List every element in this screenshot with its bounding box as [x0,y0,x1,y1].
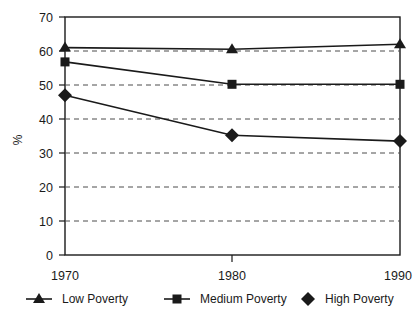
legend-item-low-poverty[interactable]: Low Poverty [26,292,128,306]
legend-label-high-poverty: High Poverty [325,292,394,306]
y-tick-label-40: 40 [39,113,53,127]
legend: Low Poverty Medium Poverty High Poverty [26,292,394,306]
y-tick-label-70: 70 [39,11,53,25]
x-tick-label-1990: 1990 [384,269,412,283]
diamond-marker-icon [301,292,315,306]
y-tick-label-30: 30 [39,147,53,161]
y-axis-ticks [59,17,65,255]
legend-item-high-poverty[interactable]: High Poverty [301,292,394,306]
y-tick-label-60: 60 [39,45,53,59]
line-chart: 70 60 50 40 30 20 10 0 % 1970 1980 1990 [0,0,419,313]
y-tick-label-10: 10 [39,215,53,229]
y-tick-label-0: 0 [46,249,53,263]
marker-square-1970 [61,57,70,66]
triangle-marker-icon [33,293,45,303]
x-tick-label-1980: 1980 [218,269,246,283]
legend-label-low-poverty: Low Poverty [62,292,128,306]
legend-item-medium-poverty[interactable]: Medium Poverty [164,292,287,306]
y-axis-title: % [11,134,25,145]
legend-label-medium-poverty: Medium Poverty [200,292,287,306]
x-tick-label-1970: 1970 [51,269,79,283]
chart-canvas: 70 60 50 40 30 20 10 0 % 1970 1980 1990 [0,0,419,313]
marker-square-1990 [396,80,405,89]
marker-square-1980 [228,80,237,89]
y-tick-label-50: 50 [39,79,53,93]
square-marker-icon [173,295,182,304]
y-tick-label-20: 20 [39,181,53,195]
